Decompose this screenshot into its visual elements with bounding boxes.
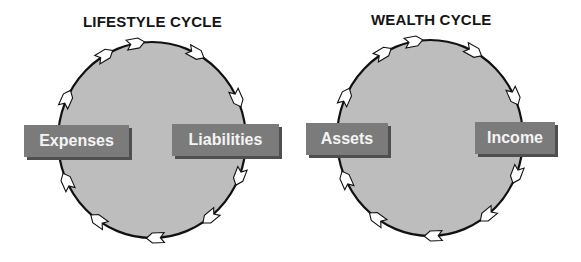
expenses-box: Expenses (24, 125, 129, 157)
assets-label: Assets (321, 130, 373, 148)
expenses-label: Expenses (39, 132, 114, 150)
income-label: Income (487, 129, 543, 147)
wealth-cycle-title: WEALTH CYCLE (371, 11, 491, 28)
income-box: Income (475, 122, 555, 154)
lifestyle-cycle-title: LIFESTYLE CYCLE (83, 13, 222, 30)
assets-box: Assets (306, 123, 388, 155)
liabilities-label: Liabilities (189, 131, 263, 149)
liabilities-box: Liabilities (172, 124, 279, 156)
